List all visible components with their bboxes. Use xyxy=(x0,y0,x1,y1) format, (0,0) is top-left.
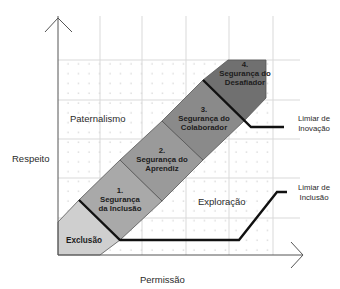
psychological-safety-diagram: Paternalismo Exploração Respeito Permiss… xyxy=(0,0,340,289)
region-label-exploration: Exploração xyxy=(198,196,246,207)
inclusion-threshold-label: Limiar de Inclusão xyxy=(298,183,330,202)
svg-text:da Inclusão: da Inclusão xyxy=(99,204,142,213)
exclusion-label: Exclusão xyxy=(66,236,102,245)
svg-text:Segurança do: Segurança do xyxy=(178,114,230,123)
svg-text:Segurança do: Segurança do xyxy=(219,69,271,78)
svg-text:Segurança: Segurança xyxy=(100,195,141,204)
region-label-paternalism: Paternalismo xyxy=(70,113,125,124)
y-axis-label: Respeito xyxy=(12,153,50,164)
svg-text:4.: 4. xyxy=(242,60,249,69)
svg-text:3.: 3. xyxy=(201,105,208,114)
svg-text:Inclusão: Inclusão xyxy=(299,193,329,202)
x-axis-label: Permissão xyxy=(140,274,185,285)
svg-text:2.: 2. xyxy=(159,146,166,155)
innovation-threshold-label: Limiar de Inovação xyxy=(298,114,331,133)
svg-text:Segurança do: Segurança do xyxy=(136,155,188,164)
svg-text:Desafiador: Desafiador xyxy=(225,78,265,87)
svg-text:Colaborador: Colaborador xyxy=(181,123,227,132)
svg-text:Aprendiz: Aprendiz xyxy=(145,164,178,173)
svg-text:1.: 1. xyxy=(117,186,124,195)
svg-text:Limiar de: Limiar de xyxy=(298,183,330,192)
svg-text:Limiar de: Limiar de xyxy=(298,114,330,123)
svg-text:Inovação: Inovação xyxy=(298,124,330,133)
